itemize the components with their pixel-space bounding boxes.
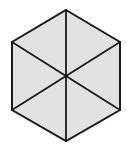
hexagon-diagram-svg [0, 0, 126, 150]
figure-canvas [0, 0, 126, 150]
